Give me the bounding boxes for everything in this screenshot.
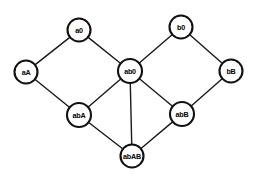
node-abB[interactable]: abB [170,102,194,126]
lattice-graph-canvas: a0b0aAab0bBabAabBabAB [0,0,253,176]
edges-layer [35,34,223,149]
edge-abA-ab0 [88,79,122,108]
edge-bB-abB [191,78,223,106]
edge-ab0-b0 [139,34,173,63]
lattice-diagram: a0b0aAab0bBabAabBabAB [0,0,253,176]
node-label-aA: aA [22,68,31,77]
node-label-a0: a0 [75,26,83,35]
node-a0[interactable]: a0 [68,19,91,42]
edge-ab0-abB [139,78,173,106]
node-abAB[interactable]: abAB [121,145,144,168]
node-label-abAB: abAB [123,152,141,161]
node-bB[interactable]: bB [220,60,243,83]
node-label-b0: b0 [177,23,185,32]
edge-abA-abAB [88,122,123,149]
edge-a0-ab0 [88,37,121,64]
edge-ab0-abAB [130,82,131,145]
edge-aA-abA [35,79,71,108]
node-label-bB: bB [226,67,235,76]
node-abA[interactable]: abA [67,103,91,127]
node-label-ab0: ab0 [124,67,136,76]
node-b0[interactable]: b0 [170,16,193,39]
edge-b0-bB [189,34,222,63]
edge-abB-abAB [140,121,173,149]
node-aA[interactable]: aA [15,61,38,84]
edge-aA-a0 [35,37,71,65]
node-ab0[interactable]: ab0 [118,59,142,83]
node-label-abB: abB [176,110,189,119]
node-label-abA: abA [73,111,86,120]
